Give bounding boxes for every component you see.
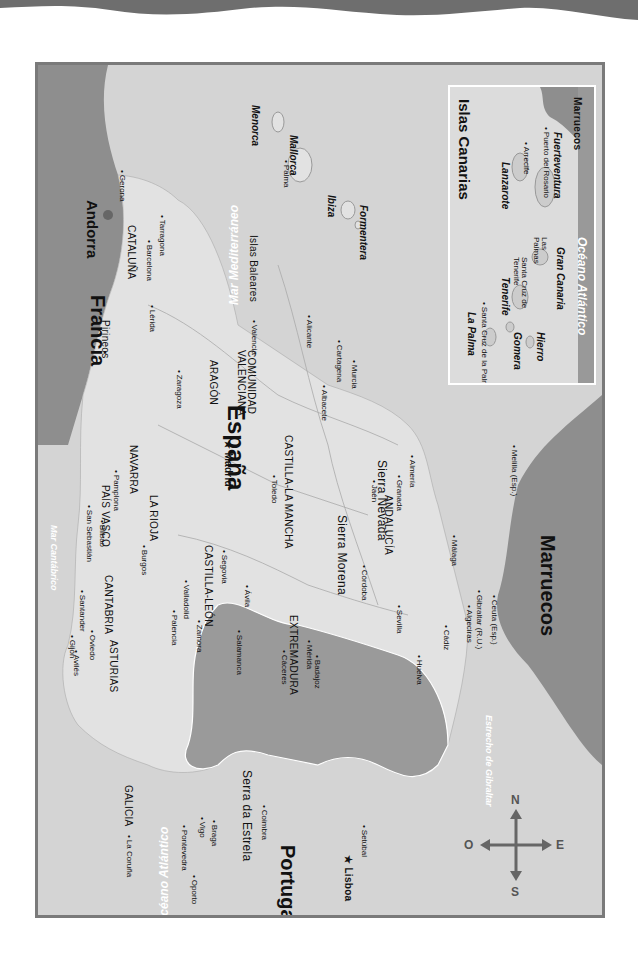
city: Melilla (Esp.) — [510, 445, 518, 496]
label-portugal: Portugal — [278, 845, 298, 918]
label-hierro: Hierro — [535, 332, 545, 361]
label-estrecho-gibraltar: Estrecho de Gibraltar — [484, 715, 493, 807]
city: Toledo — [270, 475, 278, 503]
city: Valencia — [250, 320, 258, 355]
city: Gijón — [68, 635, 76, 659]
region-cataluna: CATALUÑA — [126, 225, 136, 279]
compass-n: N — [511, 793, 520, 807]
label-islas-baleares: Islas Baleares — [248, 235, 258, 302]
label-formentera: Formentera — [358, 205, 368, 260]
city: Huelva — [415, 655, 423, 685]
city: Gerona — [118, 170, 126, 202]
label-andorra: Andorra — [85, 200, 100, 258]
star-icon: ★ — [223, 440, 234, 449]
city: Ceuta (Esp.) — [490, 595, 498, 645]
region-asturias: ASTURIAS — [108, 640, 118, 692]
city: Pontevedra — [180, 825, 188, 871]
city: Cádiz — [442, 625, 450, 650]
city: Bilbao — [98, 520, 106, 547]
city: Ávila — [243, 585, 251, 607]
label-mar-cantabrico: Mar Cantábrico — [49, 525, 58, 591]
label-oceano-atlantico: Océano Atlántico — [158, 827, 170, 918]
city: Santander — [78, 590, 86, 632]
city: La Coruña — [125, 835, 133, 877]
city: Palencia — [170, 610, 178, 646]
city: Almería — [408, 455, 416, 487]
city: Zamora — [195, 620, 203, 652]
city: Coimbra — [260, 805, 268, 840]
city: Alicante — [305, 315, 313, 348]
city: Segovia — [220, 550, 228, 584]
capital-lisboa: ★ Lisboa — [343, 855, 353, 901]
label-lanzarote: Lanzarote — [500, 162, 510, 209]
mountain-pirineos: Pirineos — [100, 320, 110, 359]
capital-madrid: ★ Madrid — [223, 440, 233, 487]
city: Arrecife — [522, 142, 530, 174]
city: Cartagena — [335, 340, 343, 382]
mountain-serra-da-estrela: Serra da Estrela — [241, 770, 253, 862]
city: Oporto — [190, 875, 198, 904]
city: Jaén — [370, 480, 378, 502]
label-mar-mediterraneo: Mar Mediterráneo — [228, 205, 240, 305]
city: Algeciras — [465, 605, 473, 643]
city: Braga — [210, 820, 218, 846]
label-tenerife: Tenerife — [500, 277, 510, 316]
city: Santa Cruz de la Palma — [480, 302, 488, 385]
city: Setúbal — [360, 825, 368, 857]
city: Gibraltar (R.U.) — [475, 590, 483, 649]
city: Albacete — [320, 385, 328, 421]
city: Puerto del Rosario — [542, 127, 550, 198]
city: Pamplona — [112, 470, 120, 511]
mountain-sierra-morena: Sierra Morena — [336, 515, 348, 595]
city: Badajoz — [313, 655, 321, 689]
label-ibiza: Ibiza — [326, 195, 336, 217]
city: Valladolid — [182, 580, 190, 619]
compass-o: O — [464, 838, 473, 852]
label-oceano-atlantico-inset: Océano Atlántico — [576, 237, 588, 335]
label-islas-canarias: Islas Canarias — [457, 99, 472, 200]
compass-rose: N S E O — [476, 805, 556, 885]
city: Oviedo — [88, 630, 96, 660]
label-menorca: Menorca — [250, 105, 260, 146]
city: Sevilla — [395, 605, 403, 633]
region-comunidad-valenciana: COMUNIDAD VALENCIANA — [236, 350, 256, 460]
region-navarra: NAVARRA — [128, 445, 138, 494]
region-aragon: ARAGÓN — [208, 360, 218, 405]
compass-s: S — [511, 885, 519, 899]
city: Tarragona — [158, 215, 166, 256]
region-extremadura: EXTREMADURA — [288, 615, 298, 695]
city: Málaga — [450, 535, 458, 566]
region-la-rioja: LA RIOJA — [148, 495, 158, 541]
region-galicia: GALICIA — [123, 785, 133, 827]
city: San Sebastián — [85, 505, 93, 562]
region-castilla-leon: CASTILLA-LEÓN — [203, 545, 213, 627]
city: Burgos — [140, 545, 148, 575]
canarias-inset: Islas Canarias La Palma Tenerife Gomera … — [448, 85, 596, 385]
city-palma: Palma — [282, 160, 290, 188]
city: Córdoba — [360, 565, 368, 601]
city: Santa Cruz de Tenerife — [512, 257, 528, 317]
star-icon: ★ — [343, 855, 354, 864]
label-marruecos: Marruecos — [538, 535, 558, 636]
compass-e: E — [556, 838, 564, 852]
city: Las Palmas — [532, 237, 548, 277]
ibiza-island — [341, 201, 355, 219]
city: Murcia — [350, 360, 358, 389]
region-cantabria: CANTABRIA — [103, 575, 113, 634]
city: Barcelona — [145, 240, 153, 281]
map-frame: Francia Andorra España Portugal Marrueco… — [35, 62, 605, 918]
city: Zaragoza — [175, 370, 183, 409]
city: Vigo — [198, 817, 206, 838]
menorca-island — [272, 112, 284, 132]
decorative-wave-banner — [0, 0, 638, 22]
compass-arrows-icon — [476, 805, 556, 885]
label-gran-canaria: Gran Canaria — [555, 247, 565, 310]
city: Lérida — [148, 305, 156, 332]
label-la-palma: La Palma — [466, 312, 476, 356]
region-castilla-la-mancha: CASTILLA-LA MANCHA — [283, 435, 293, 549]
city: Salamanca — [235, 630, 243, 675]
andorra-land — [103, 210, 113, 220]
city: Cáceres — [280, 650, 288, 685]
label-marruecos-inset: Marruecos — [572, 97, 582, 150]
label-fuerteventura: Fuerteventura — [552, 132, 562, 199]
